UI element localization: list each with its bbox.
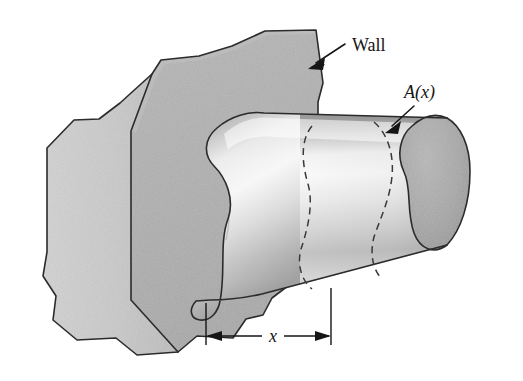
wall-label: Wall [352,35,386,55]
distance-label: x [268,326,277,346]
area-label: A(x) [403,82,435,103]
figure-root: Wall A(x) x [0,0,523,381]
wall-leader-line [316,44,345,63]
cantilever-beam-in-wall-figure: Wall A(x) x [0,0,523,381]
dimension-arrow-right-icon [315,331,331,341]
